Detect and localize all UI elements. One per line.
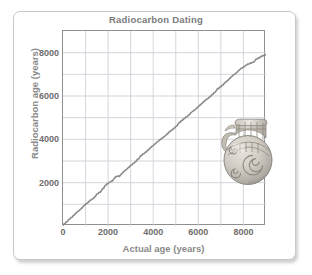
chart-figure: Radiocarbon Dating 2000400060008000 0200… [0, 0, 312, 275]
ancient-pot-illustration [218, 112, 274, 188]
x-tick-label: 6000 [188, 227, 208, 237]
y-tick-label: 2000 [39, 178, 59, 188]
y-tick-label: 4000 [39, 134, 59, 144]
y-tick-label: 8000 [39, 48, 59, 58]
x-tick-label: 0 [60, 227, 65, 237]
x-tick-label: 4000 [143, 227, 163, 237]
y-tick-label: 6000 [39, 91, 59, 101]
x-axis-label: Actual age (years) [62, 243, 265, 254]
y-axis-label: Radiocarbon age (years) [29, 6, 40, 201]
x-tick-label: 2000 [98, 227, 118, 237]
chart-title: Radiocarbon Dating [0, 14, 312, 25]
x-tick-label: 8000 [233, 227, 253, 237]
